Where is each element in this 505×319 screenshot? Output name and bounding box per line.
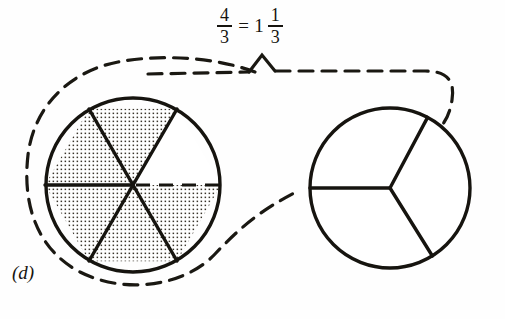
figure-page: 4 3 = 1 1 3 (d) (0, 0, 505, 319)
right-circle-group (310, 108, 470, 268)
fraction-figure-svg (0, 0, 505, 319)
left-circle-group (45, 98, 221, 272)
